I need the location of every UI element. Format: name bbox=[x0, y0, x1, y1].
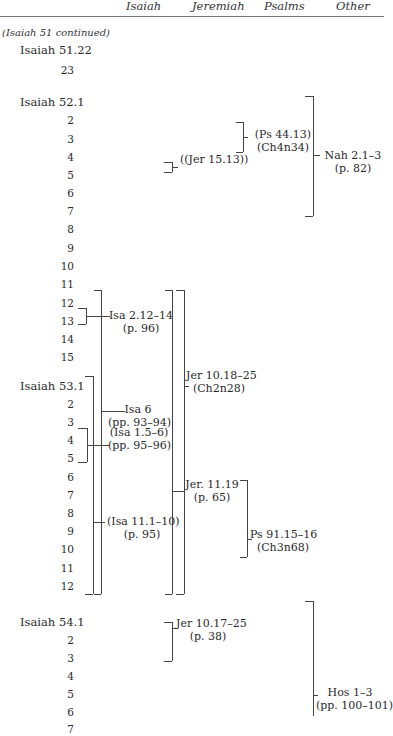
annotation-note: (p. 82) bbox=[322, 162, 384, 175]
annotation-ref: Jer 10.18–25 bbox=[186, 369, 252, 382]
verse-number: 3 bbox=[44, 132, 74, 146]
bracket-line bbox=[93, 376, 94, 594]
bracket-line bbox=[164, 661, 172, 662]
column-header-isaiah: Isaiah bbox=[126, 0, 161, 13]
verse-number: 8 bbox=[44, 222, 74, 236]
bracket-line bbox=[243, 137, 248, 138]
bracket-line bbox=[85, 594, 93, 595]
bracket-line bbox=[247, 480, 248, 557]
column-header-psalms: Psalms bbox=[264, 0, 305, 13]
bracket-line bbox=[78, 462, 87, 463]
bracket-line bbox=[86, 316, 110, 317]
verse-number: 2 bbox=[44, 113, 74, 127]
bracket-line bbox=[176, 594, 184, 595]
annotation-ref: Ps 91.15–16 bbox=[250, 528, 316, 541]
bracket-line bbox=[305, 601, 313, 602]
bracket-line bbox=[172, 290, 173, 594]
annotation-ref: Hos 1–3 bbox=[316, 686, 384, 699]
bracket-line bbox=[313, 155, 320, 156]
verse-number: 11 bbox=[44, 561, 74, 575]
bracket-line bbox=[313, 96, 314, 216]
bracket-line bbox=[305, 216, 313, 217]
bracket-line bbox=[164, 172, 172, 173]
verse-number: 9 bbox=[44, 524, 74, 538]
bracket-line bbox=[165, 290, 172, 291]
bracket-line bbox=[164, 622, 172, 623]
bracket-line bbox=[176, 290, 184, 291]
column-header-other: Other bbox=[336, 0, 370, 13]
bracket-line bbox=[101, 290, 102, 594]
annotation-note: (p. 65) bbox=[184, 491, 240, 504]
bracket-line bbox=[240, 557, 247, 558]
bracket-line bbox=[78, 324, 86, 325]
continued-label: (Isaiah 51 continued) bbox=[2, 27, 110, 38]
verse-label: Isaiah 51.22 bbox=[20, 43, 92, 57]
verse-label: Isaiah 54.1 bbox=[20, 615, 85, 629]
annotation-jer-10-17-25: Jer 10.17–25 (p. 38) bbox=[176, 617, 240, 643]
verse-number: 12 bbox=[44, 296, 74, 310]
annotation-jer-15-13: ((Jer 15.13)) bbox=[180, 153, 248, 167]
bracket-line bbox=[94, 594, 101, 595]
bracket-line bbox=[87, 445, 109, 446]
annotation-note: (Ch2n28) bbox=[186, 382, 252, 395]
annotation-jer-11-19: Jer. 11.19 (p. 65) bbox=[184, 478, 240, 504]
annotation-ps-91-15-16: Ps 91.15–16 (Ch3n68) bbox=[250, 528, 316, 554]
annotation-note: (p. 38) bbox=[176, 630, 240, 643]
annotation-note: (pp. 100–101) bbox=[316, 699, 384, 712]
verse-number: 6 bbox=[44, 186, 74, 200]
column-header-jeremiah: Jeremiah bbox=[192, 0, 245, 13]
annotation-note: (Ch4n34) bbox=[253, 141, 313, 154]
annotation-note: (pp. 95–96) bbox=[108, 439, 170, 452]
verse-number: 6 bbox=[44, 705, 74, 719]
annotation-nah-2-1-3: Nah 2.1–3 (p. 82) bbox=[322, 149, 384, 175]
verse-number: 3 bbox=[44, 415, 74, 429]
verse-number: 11 bbox=[44, 277, 74, 291]
header-divider bbox=[0, 16, 384, 17]
verse-number: 7 bbox=[44, 204, 74, 218]
verse-number: 2 bbox=[44, 633, 74, 647]
verse-number: 5 bbox=[44, 451, 74, 465]
bracket-line bbox=[165, 594, 172, 595]
bracket-line bbox=[85, 376, 93, 377]
verse-label: Isaiah 53.1 bbox=[20, 379, 85, 393]
bracket-line bbox=[240, 480, 247, 481]
verse-number: 13 bbox=[44, 314, 74, 328]
verse-number: 7 bbox=[44, 722, 74, 736]
annotation-ref: Jer 10.17–25 bbox=[176, 617, 240, 630]
annotation-ref: (Ps 44.13) bbox=[253, 128, 313, 141]
verse-number: 7 bbox=[44, 488, 74, 502]
annotation-ref: Jer. 11.19 bbox=[184, 478, 240, 491]
annotation-note: (Ch3n68) bbox=[250, 541, 316, 554]
verse-number: 8 bbox=[44, 506, 74, 520]
annotation-note: (p. 95) bbox=[107, 528, 177, 541]
bracket-line bbox=[313, 601, 314, 716]
bracket-line bbox=[172, 491, 184, 492]
bracket-line bbox=[164, 162, 172, 163]
bracket-line bbox=[305, 96, 313, 97]
verse-number: 15 bbox=[44, 350, 74, 364]
annotation-ref: (Isa 11.1–10) bbox=[107, 515, 177, 528]
bracket-line bbox=[78, 308, 86, 309]
verse-number: 4 bbox=[44, 433, 74, 447]
verse-number: 4 bbox=[44, 150, 74, 164]
verse-number: 10 bbox=[44, 259, 74, 273]
bracket-line bbox=[78, 428, 87, 429]
annotation-ps-44-13: (Ps 44.13) (Ch4n34) bbox=[253, 128, 313, 154]
annotation-note: (p. 96) bbox=[108, 322, 174, 335]
verse-number: 2 bbox=[44, 397, 74, 411]
verse-number: 5 bbox=[44, 687, 74, 701]
annotation-isa-2-12-14: Isa 2.12–14 (p. 96) bbox=[108, 309, 174, 335]
annotation-ref: Isa 6 bbox=[108, 403, 168, 416]
bracket-line bbox=[93, 522, 105, 523]
bracket-line bbox=[184, 290, 185, 594]
annotation-ref: Nah 2.1–3 bbox=[322, 149, 384, 162]
verse-number: 12 bbox=[44, 579, 74, 593]
annotation-jer-10-18-25: Jer 10.18–25 (Ch2n28) bbox=[186, 369, 252, 395]
bracket-line bbox=[236, 122, 243, 123]
verse-number: 4 bbox=[44, 669, 74, 683]
verse-number: 14 bbox=[44, 332, 74, 346]
verse-number: 3 bbox=[44, 651, 74, 665]
verse-number: 9 bbox=[44, 241, 74, 255]
verse-number: 5 bbox=[44, 168, 74, 182]
annotation-isa-11-1-10: (Isa 11.1–10) (p. 95) bbox=[107, 515, 177, 541]
